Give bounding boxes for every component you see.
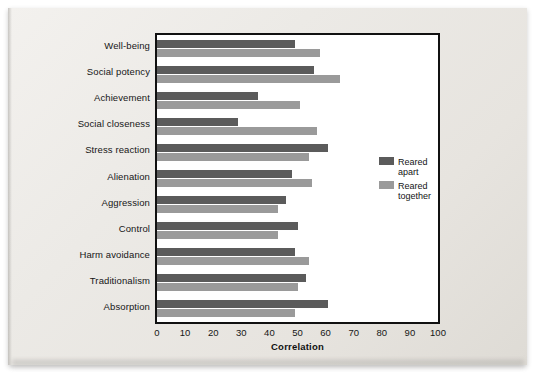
bar-absorption-reared-apart [157, 300, 328, 308]
y-axis-label-achievement: Achievement [94, 92, 150, 103]
x-axis-ticks: 0102030405060708090100 [155, 327, 440, 341]
bar-social-closeness-reared-apart [157, 118, 238, 126]
x-tick-80: 80 [377, 327, 388, 338]
bar-social-potency-reared-together [157, 75, 340, 83]
y-axis-label-traditionalism: Traditionalism [90, 275, 150, 286]
x-tick-60: 60 [320, 327, 331, 338]
bar-well-being-reared-together [157, 49, 320, 57]
legend-item-reared-apart: Rearedapart [379, 157, 446, 177]
bar-stress-reaction-reared-apart [157, 144, 328, 152]
legend-label-reared-apart: Rearedapart [398, 157, 446, 177]
bar-traditionalism-reared-together [157, 283, 298, 291]
screenshot-root: Well-beingSocial potencyAchievementSocia… [0, 0, 535, 382]
y-axis-label-control: Control [119, 223, 150, 234]
y-axis-label-aggression: Aggression [101, 197, 150, 208]
x-tick-20: 20 [208, 327, 219, 338]
x-tick-0: 0 [154, 327, 159, 338]
bar-social-closeness-reared-together [157, 127, 317, 135]
bar-harm-avoidance-reared-apart [157, 248, 295, 256]
page-left-edge-shading [8, 8, 12, 365]
bar-control-reared-apart [157, 222, 298, 230]
x-tick-50: 50 [292, 327, 303, 338]
y-axis-label-stress-reaction: Stress reaction [85, 144, 150, 155]
x-tick-10: 10 [180, 327, 191, 338]
y-axis-label-harm-avoidance: Harm avoidance [79, 249, 150, 260]
bar-well-being-reared-apart [157, 40, 295, 48]
bar-aggression-reared-together [157, 205, 278, 213]
x-tick-30: 30 [236, 327, 247, 338]
y-axis-label-alienation: Alienation [107, 171, 150, 182]
bar-control-reared-together [157, 231, 278, 239]
x-tick-70: 70 [348, 327, 359, 338]
legend-swatch-reared-together [379, 181, 394, 189]
bar-traditionalism-reared-apart [157, 274, 306, 282]
chart-legend: Rearedapart Rearedtogether [379, 157, 446, 205]
y-axis-label-social-potency: Social potency [87, 66, 150, 77]
bar-harm-avoidance-reared-together [157, 257, 309, 265]
bar-alienation-reared-apart [157, 170, 292, 178]
page-bottom-shadow [12, 360, 524, 370]
legend-swatch-reared-apart [379, 157, 394, 165]
x-tick-90: 90 [405, 327, 416, 338]
bar-achievement-reared-together [157, 101, 300, 109]
legend-label-reared-together: Rearedtogether [398, 181, 446, 201]
bar-absorption-reared-together [157, 309, 295, 317]
bar-alienation-reared-together [157, 179, 312, 187]
x-tick-40: 40 [264, 327, 275, 338]
legend-label-reared-together-line2: together [398, 191, 446, 201]
x-axis-title: Correlation [155, 341, 440, 352]
bar-aggression-reared-apart [157, 196, 286, 204]
y-axis-label-well-being: Well-being [104, 40, 150, 51]
bar-achievement-reared-apart [157, 92, 258, 100]
legend-label-reared-apart-line2: apart [398, 167, 446, 177]
bar-social-potency-reared-apart [157, 66, 314, 74]
y-axis-label-absorption: Absorption [104, 301, 150, 312]
bar-stress-reaction-reared-together [157, 153, 309, 161]
legend-item-reared-together: Rearedtogether [379, 181, 446, 201]
y-axis-labels: Well-beingSocial potencyAchievementSocia… [20, 33, 150, 324]
legend-label-reared-apart-line1: Reared [398, 157, 446, 167]
x-tick-100: 100 [430, 327, 446, 338]
y-axis-label-social-closeness: Social closeness [78, 118, 150, 129]
legend-label-reared-together-line1: Reared [398, 181, 446, 191]
